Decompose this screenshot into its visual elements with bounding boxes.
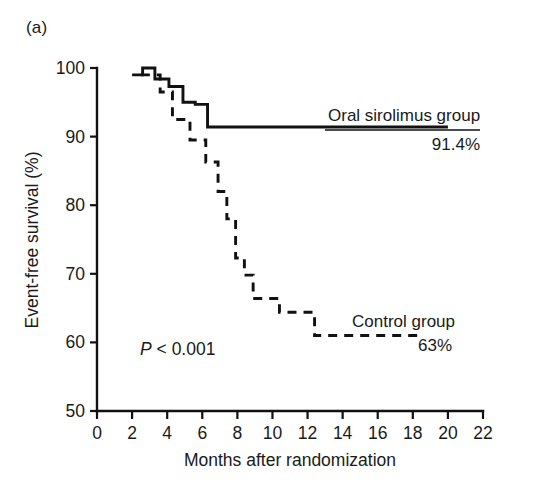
x-axis-title: Months after randomization xyxy=(184,450,396,470)
series-endpoint-control-group: 63% xyxy=(418,336,452,355)
series-label-control-group: Control group xyxy=(352,312,455,331)
x-tick-label-8: 8 xyxy=(232,423,242,443)
y-tick-label-80: 80 xyxy=(66,195,86,215)
x-tick-label-10: 10 xyxy=(263,423,283,443)
p-value-symbol: P xyxy=(140,339,152,359)
survival-chart: 5060708090100 0246810121416182022 Months… xyxy=(0,0,542,485)
y-tick-label-70: 70 xyxy=(66,264,86,284)
x-tick-label-6: 6 xyxy=(197,423,207,443)
x-tick-label-20: 20 xyxy=(438,423,458,443)
p-value-annotation: P < 0.001 xyxy=(140,339,215,359)
y-tick-label-60: 60 xyxy=(66,332,86,352)
x-tick-label-0: 0 xyxy=(92,423,102,443)
x-tick-label-14: 14 xyxy=(333,423,353,443)
x-tick-label-22: 22 xyxy=(473,423,492,443)
x-tick-label-12: 12 xyxy=(298,423,317,443)
y-tick-label-100: 100 xyxy=(56,58,85,78)
series-label-oral-sirolimus-group: Oral sirolimus group xyxy=(328,106,480,125)
figure-root: (a) 5060708090100 0246810121416182022 Mo… xyxy=(0,0,542,485)
x-tick-label-2: 2 xyxy=(127,423,137,443)
y-tick-label-90: 90 xyxy=(66,127,86,147)
x-axis-tick-labels: 0246810121416182022 xyxy=(92,423,493,443)
p-value-rest: < 0.001 xyxy=(152,339,216,359)
x-tick-label-4: 4 xyxy=(162,423,172,443)
x-tick-label-18: 18 xyxy=(403,423,422,443)
series-endpoint-oral-sirolimus-group: 91.4% xyxy=(432,135,480,154)
x-tick-label-16: 16 xyxy=(368,423,387,443)
y-axis-title: Event-free survival (%) xyxy=(22,152,42,329)
y-tick-label-50: 50 xyxy=(66,401,86,421)
y-axis-tick-labels: 5060708090100 xyxy=(56,58,85,421)
